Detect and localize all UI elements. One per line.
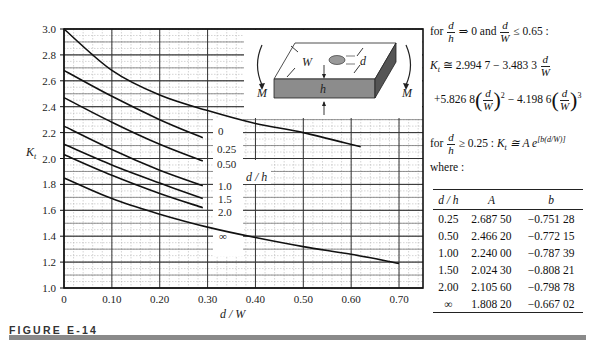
table-row: 1.502.024 30−0.808 21: [433, 261, 583, 278]
svg-text:0.50: 0.50: [217, 158, 237, 170]
table-header-row: d / h A b: [433, 190, 583, 210]
svg-text:M: M: [401, 86, 413, 100]
svg-text:0.50: 0.50: [294, 293, 314, 305]
equation-1: Kt ≅ 2.994 7 − 3.483 3 dW: [430, 54, 551, 78]
svg-text:0.40: 0.40: [246, 293, 266, 305]
svg-text:2.0: 2.0: [218, 206, 232, 218]
svg-text:1.8: 1.8: [42, 178, 56, 190]
svg-text:0.70: 0.70: [389, 293, 409, 305]
svg-text:2.0: 2.0: [42, 153, 56, 165]
equation-2: +5.826 8(dW)2 − 4.198 6(dW)3: [434, 88, 581, 112]
svg-text:0: 0: [218, 125, 224, 137]
svg-text:0.25: 0.25: [217, 143, 237, 155]
svg-text:1.0: 1.0: [218, 180, 232, 192]
table-row: 0.502.466 20−0.772 15: [433, 227, 583, 244]
svg-text:h: h: [320, 82, 326, 96]
table-row: ∞1.808 20−0.667 02: [433, 295, 583, 313]
svg-text:1.4: 1.4: [42, 230, 56, 242]
svg-text:0.60: 0.60: [342, 293, 362, 305]
condition-1: for dh ⇒ 0 and dW ≤ 0.65 :: [430, 20, 549, 44]
y-axis-label: Kt: [25, 145, 37, 161]
svg-text:W: W: [302, 55, 313, 69]
bottom-rule: [9, 335, 586, 340]
where-label: where :: [430, 162, 464, 174]
svg-text:0.20: 0.20: [150, 293, 170, 305]
hole-icon: [329, 56, 345, 65]
svg-text:1.6: 1.6: [42, 204, 56, 216]
svg-text:1.2: 1.2: [42, 256, 56, 268]
svg-text:3.0: 3.0: [42, 23, 56, 35]
svg-text:1.0: 1.0: [42, 282, 56, 294]
condition-2: for dh ≥ 0.25 : Kt ≅ A e[b(d/W)]: [430, 132, 566, 156]
svg-text:2.2: 2.2: [42, 127, 56, 139]
svg-text:0.10: 0.10: [102, 293, 122, 305]
svg-text:2.4: 2.4: [42, 101, 56, 113]
svg-text:d: d: [360, 54, 367, 68]
svg-text:1.5: 1.5: [218, 193, 232, 205]
svg-text:∞: ∞: [219, 230, 227, 242]
legend-title: d / h: [246, 170, 267, 184]
curve-dh-2.0: [64, 155, 203, 208]
svg-text:2.8: 2.8: [42, 49, 56, 61]
table-row: 1.002.240 00−0.787 39: [433, 244, 583, 261]
coefficient-table: d / h A b 0.252.687 50−0.751 28 0.502.46…: [433, 189, 583, 313]
curve-dh-1.0: [64, 126, 203, 186]
svg-text:M: M: [256, 86, 268, 100]
svg-text:0.30: 0.30: [198, 293, 218, 305]
table-row: 2.002.105 60−0.798 78: [433, 278, 583, 295]
svg-text:0: 0: [61, 293, 67, 305]
table-row: 0.252.687 50−0.751 28: [433, 210, 583, 228]
x-axis-label: d / W: [220, 307, 246, 321]
svg-text:2.6: 2.6: [42, 75, 56, 87]
